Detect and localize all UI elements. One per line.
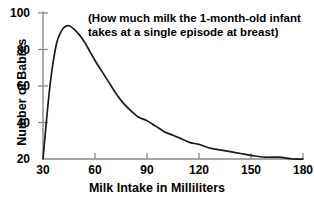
x-tick-label-120: 120	[182, 164, 216, 176]
annotation-line-2: takes at a single episode at breast)	[88, 25, 310, 39]
chart-annotation: (How much milk the 1-month-old infant ta…	[88, 11, 310, 39]
chart-figure: 100 80 60 40 20 30 60 90 120 150 180 Mil…	[0, 0, 314, 200]
annotation-line-1: (How much milk the 1-month-old infant	[88, 11, 310, 25]
x-axis-title: Milk Intake in Milliliters	[0, 182, 314, 195]
y-tick-label-100: 100	[4, 7, 30, 19]
x-tick-label-90: 90	[130, 164, 164, 176]
x-tick-label-150: 150	[234, 164, 268, 176]
x-tick-label-30: 30	[26, 164, 60, 176]
x-tick-label-60: 60	[78, 164, 112, 176]
x-axis-ticks	[95, 153, 303, 159]
distribution-curve	[43, 26, 303, 159]
x-tick-label-180: 180	[286, 164, 314, 176]
y-axis-title: Number of Babies	[16, 32, 29, 152]
